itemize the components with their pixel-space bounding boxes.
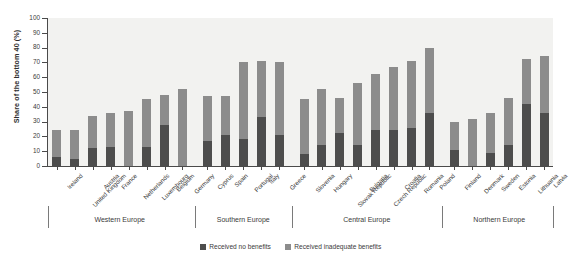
region-group-separator <box>292 206 293 228</box>
bar-segment-no-benefits <box>335 133 344 166</box>
y-tick-mark <box>42 48 47 49</box>
legend-swatch-no-benefits <box>200 244 206 250</box>
bar-segment-no-benefits <box>239 139 248 166</box>
y-tick-label: 100 <box>16 15 40 21</box>
x-tick-mark <box>412 166 413 170</box>
bar-segment-no-benefits <box>52 157 61 166</box>
x-tick-label: Denmark <box>483 172 506 195</box>
x-axis-line <box>47 166 553 167</box>
x-tick-label: Greece <box>288 172 307 191</box>
bar-segment-inadequate-benefits <box>275 62 284 135</box>
y-tick-label: 20 <box>16 133 40 139</box>
bar-slovenia[interactable] <box>300 99 309 166</box>
bar-ireland[interactable] <box>52 130 61 166</box>
x-tick-mark <box>165 166 166 170</box>
bar-segment-no-benefits <box>407 128 416 166</box>
bar-segment-inadequate-benefits <box>52 130 61 157</box>
region-group-separator <box>553 206 554 228</box>
bar-segment-no-benefits <box>389 130 398 166</box>
bar-series-container <box>48 18 553 166</box>
x-tick-mark <box>279 166 280 170</box>
x-tick-label: Germany <box>193 172 216 195</box>
bar-greece[interactable] <box>275 62 284 166</box>
y-tick-mark <box>42 136 47 137</box>
bar-segment-inadequate-benefits <box>257 61 266 117</box>
region-group-separator <box>442 206 443 228</box>
bar-france[interactable] <box>106 113 115 166</box>
x-tick-mark <box>454 166 455 170</box>
bar-latvia[interactable] <box>540 56 549 166</box>
bar-segment-inadequate-benefits <box>522 59 531 103</box>
x-tick-mark <box>322 166 323 170</box>
y-tick-label: 30 <box>16 118 40 124</box>
bar-segment-no-benefits <box>486 153 495 166</box>
bar-segment-inadequate-benefits <box>160 95 169 125</box>
x-tick-label: Slovenia <box>314 172 336 194</box>
bar-bulgaria[interactable] <box>353 83 362 166</box>
x-tick-mark <box>57 166 58 170</box>
bar-segment-inadequate-benefits <box>142 99 151 146</box>
bar-segment-no-benefits <box>450 150 459 166</box>
chart-legend: Received no benefits Received inadequate… <box>0 243 581 250</box>
y-tick-mark <box>42 33 47 34</box>
x-tick-label: Spain <box>233 172 249 188</box>
bar-segment-inadequate-benefits <box>203 96 212 140</box>
bar-lithuania[interactable] <box>522 59 531 166</box>
bar-spain[interactable] <box>221 96 230 166</box>
bar-united-kingdom[interactable] <box>70 130 79 166</box>
y-tick-label: 60 <box>16 74 40 80</box>
y-tick-mark <box>42 151 47 152</box>
bar-segment-inadequate-benefits <box>450 122 459 150</box>
bar-slovak-republic[interactable] <box>335 98 344 166</box>
y-tick-mark <box>42 107 47 108</box>
bar-segment-inadequate-benefits <box>486 113 495 153</box>
bar-finland[interactable] <box>450 122 459 166</box>
bar-sweden[interactable] <box>486 113 495 166</box>
bar-segment-no-benefits <box>70 159 79 166</box>
x-tick-mark <box>93 166 94 170</box>
x-tick-label: Ireland <box>65 172 83 190</box>
x-tick-mark <box>261 166 262 170</box>
bar-denmark[interactable] <box>468 119 477 166</box>
region-group-label-northern-europe: Northern Europe <box>439 216 559 223</box>
x-tick-label: Cyprus <box>216 172 235 191</box>
x-tick-mark <box>544 166 545 170</box>
bar-czech-republic[interactable] <box>371 74 380 166</box>
region-group-label-central-europe: Central Europe <box>307 216 427 223</box>
bar-segment-inadequate-benefits <box>178 89 187 166</box>
bar-segment-inadequate-benefits <box>221 96 230 134</box>
bar-segment-inadequate-benefits <box>239 62 248 139</box>
bar-germany[interactable] <box>178 89 187 166</box>
bar-hungary[interactable] <box>317 89 326 166</box>
x-tick-mark <box>182 166 183 170</box>
legend-label-inadequate-benefits: Received inadequate benefits <box>294 243 381 250</box>
bar-segment-no-benefits <box>160 125 169 166</box>
x-tick-mark <box>129 166 130 170</box>
bar-segment-inadequate-benefits <box>540 56 549 112</box>
chart-root: Share of the bottom 40 (%) 0102030405060… <box>0 0 581 264</box>
bar-belgium[interactable] <box>160 95 169 166</box>
bar-estonia[interactable] <box>504 98 513 166</box>
bar-poland[interactable] <box>425 48 434 166</box>
bar-segment-inadequate-benefits <box>70 130 79 158</box>
x-tick-mark <box>304 166 305 170</box>
bar-netherlands[interactable] <box>124 111 133 166</box>
bar-portugal[interactable] <box>239 62 248 166</box>
bar-austria[interactable] <box>88 116 97 166</box>
bar-croatia[interactable] <box>389 67 398 166</box>
bar-italy[interactable] <box>257 61 266 166</box>
y-tick-label: 80 <box>16 44 40 50</box>
x-tick-mark <box>243 166 244 170</box>
bar-segment-inadequate-benefits <box>468 119 477 166</box>
bar-segment-no-benefits <box>106 147 115 166</box>
x-tick-mark <box>429 166 430 170</box>
bar-luxembourg[interactable] <box>142 99 151 166</box>
bar-cyprus[interactable] <box>203 96 212 166</box>
y-tick-label: 50 <box>16 89 40 95</box>
x-tick-mark <box>526 166 527 170</box>
bar-segment-no-benefits <box>425 113 434 166</box>
bar-segment-inadequate-benefits <box>389 67 398 131</box>
bar-romania[interactable] <box>407 61 416 166</box>
bar-segment-inadequate-benefits <box>106 113 115 147</box>
bar-segment-no-benefits <box>317 145 326 166</box>
